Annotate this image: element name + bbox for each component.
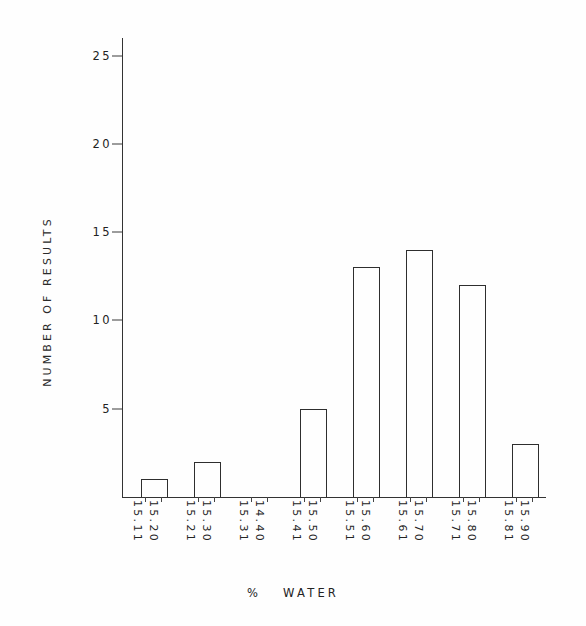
x-tick-label: 15.71: [449, 500, 462, 586]
y-tick-label: 25: [50, 49, 112, 63]
x-tick-mark: [410, 497, 411, 502]
x-tick-label: 15.21: [184, 500, 197, 586]
x-axis-title: %WATER: [0, 586, 586, 600]
y-tick-mark: [112, 232, 122, 233]
x-tick-label: 15.70: [412, 500, 425, 586]
x-tick-mark: [463, 497, 464, 502]
x-tick-mark: [479, 497, 480, 502]
bar: [459, 285, 486, 497]
bar: [512, 444, 539, 497]
x-tick-mark: [532, 497, 533, 502]
x-tick-mark: [426, 497, 427, 502]
x-tick-mark: [373, 497, 374, 502]
x-tick-label: 15.51: [343, 500, 356, 586]
y-tick-mark: [112, 320, 122, 321]
y-tick-mark: [112, 55, 122, 56]
y-tick-mark: [112, 143, 122, 144]
y-tick-label: 15: [50, 225, 112, 239]
y-tick-label: 5: [50, 402, 112, 416]
x-tick-mark: [214, 497, 215, 502]
plot-area: [122, 38, 546, 497]
x-tick-label: 15.90: [518, 500, 531, 586]
x-tick-label: 15.81: [502, 500, 515, 586]
x-tick-mark: [516, 497, 517, 502]
x-tick-label: 14.40: [253, 500, 266, 586]
y-tick-mark: [112, 408, 122, 409]
x-tick-label: 15.50: [306, 500, 319, 586]
x-tick-mark: [145, 497, 146, 502]
x-tick-label: 15.30: [200, 500, 213, 586]
x-tick-mark: [251, 497, 252, 502]
x-tick-label: 15.80: [465, 500, 478, 586]
x-tick-label: 15.61: [396, 500, 409, 586]
bar: [406, 250, 433, 497]
bar: [353, 267, 380, 497]
x-tick-label: 15.20: [147, 500, 160, 586]
x-tick-mark: [304, 497, 305, 502]
x-tick-label: 15.11: [131, 500, 144, 586]
x-tick-mark: [161, 497, 162, 502]
chart-figure: NUMBER OF RESULTS 510152025 15.1115.2015…: [0, 0, 586, 626]
bar: [194, 462, 221, 497]
x-tick-label: 15.31: [237, 500, 250, 586]
x-tick-label: 15.60: [359, 500, 372, 586]
x-axis-title-word: WATER: [283, 586, 339, 600]
bar: [141, 479, 168, 497]
x-tick-mark: [320, 497, 321, 502]
y-tick-label: 20: [50, 137, 112, 151]
x-axis-line: [122, 497, 546, 498]
y-tick-label: 10: [50, 313, 112, 327]
x-tick-mark: [357, 497, 358, 502]
x-axis-title-symbol: %: [247, 586, 261, 600]
bar: [300, 409, 327, 497]
x-tick-label: 15.41: [290, 500, 303, 586]
x-tick-mark: [198, 497, 199, 502]
x-tick-mark: [267, 497, 268, 502]
